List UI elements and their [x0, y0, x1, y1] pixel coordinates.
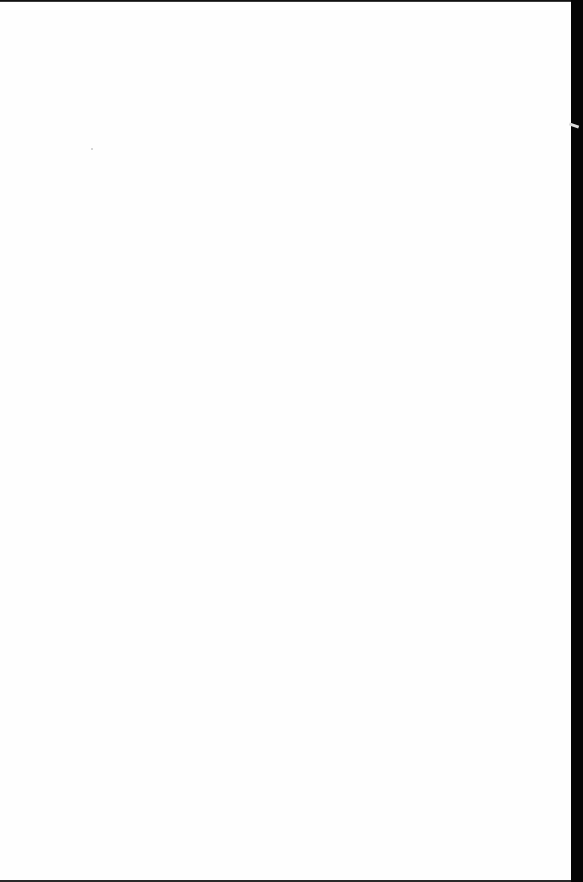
blank-page — [0, 1, 571, 881]
scan-edge-right — [571, 0, 583, 882]
scan-speck — [91, 148, 93, 150]
